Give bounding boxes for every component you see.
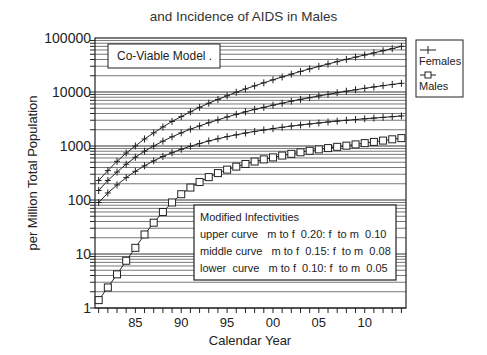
legend-label-females: Females: [419, 55, 462, 67]
infectivities-lower: lower curve m to f 0.10: f to m 0.05: [200, 262, 388, 274]
series-2: [96, 112, 405, 206]
y-axis-label: per Million Total Population: [25, 95, 40, 250]
y-tick-label: 1: [83, 300, 91, 316]
y-tick-label: 100000: [44, 30, 91, 46]
annotation-model-box: Co-Viable Model .: [108, 44, 220, 68]
infectivities-title: Modified Infectivities: [200, 211, 300, 223]
x-axis: 859095000510: [99, 308, 402, 330]
x-tick-label: 00: [266, 315, 280, 330]
x-axis-label: Calendar Year: [209, 333, 292, 348]
chart-canvas: 100000100001000100101 859095000510 Co-Vi…: [0, 0, 487, 355]
y-tick-label: 10000: [52, 84, 91, 100]
infectivities-middle: middle curve m to f 0.15: f to m 0.08: [200, 245, 391, 257]
y-tick-label: 10: [75, 246, 91, 262]
y-axis: 100000100001000100101: [44, 30, 95, 316]
x-tick-label: 90: [174, 315, 188, 330]
legend: Females Males: [416, 40, 463, 97]
x-tick-label: 95: [220, 315, 234, 330]
x-tick-label: 05: [312, 315, 326, 330]
infectivities-upper: upper curve m to f 0.20: f to m 0.10: [200, 228, 386, 240]
x-tick-label: 10: [357, 315, 371, 330]
legend-label-males: Males: [419, 80, 449, 92]
x-tick-label: 85: [128, 315, 142, 330]
y-tick-label: 100: [68, 192, 92, 208]
y-tick-label: 1000: [60, 138, 91, 154]
model-label: Co-Viable Model .: [117, 49, 212, 63]
annotation-infectivities-box: Modified Infectivities upper curve m to …: [194, 205, 396, 280]
